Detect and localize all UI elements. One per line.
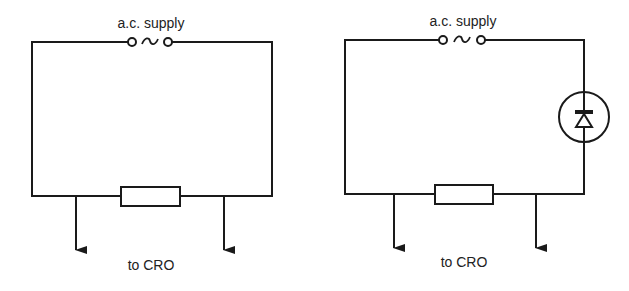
- circuit-diagrams: [0, 0, 629, 291]
- wire-top-left: [32, 42, 128, 196]
- ac-tilde-icon: [142, 38, 158, 44]
- ac-tilde-icon: [454, 36, 470, 42]
- supply-terminal-right: [164, 38, 172, 46]
- wire-top-right: [172, 42, 272, 196]
- supply-label: a.c. supply: [118, 15, 185, 31]
- supply-terminal-right: [477, 36, 485, 44]
- resistor: [121, 187, 180, 206]
- circuit-left: [32, 38, 272, 250]
- supply-label: a.c. supply: [430, 13, 497, 29]
- wire-top-left: [345, 40, 439, 194]
- supply-terminal-left: [439, 36, 447, 44]
- supply-terminal-left: [128, 38, 136, 46]
- output-label: to CRO: [128, 257, 175, 273]
- circuit-right: [345, 36, 609, 248]
- diode-icon: [559, 92, 609, 142]
- output-label: to CRO: [441, 254, 488, 270]
- resistor: [435, 185, 493, 204]
